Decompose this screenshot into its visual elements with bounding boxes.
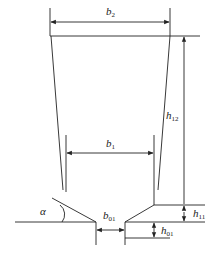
nozzle-diagram: b2 b1 h12 h11 h01 b01 α — [0, 0, 216, 262]
label-h11: h11 — [193, 207, 206, 221]
left-incline — [52, 198, 96, 222]
label-b1: b1 — [106, 137, 116, 151]
alpha-arc — [60, 205, 65, 222]
label-alpha: α — [40, 205, 46, 217]
left-wall — [51, 36, 63, 190]
label-h01: h01 — [161, 224, 174, 238]
label-b01: b01 — [103, 209, 116, 223]
right-incline — [125, 205, 154, 222]
label-h12: h12 — [166, 109, 179, 123]
label-b2: b2 — [106, 5, 116, 19]
